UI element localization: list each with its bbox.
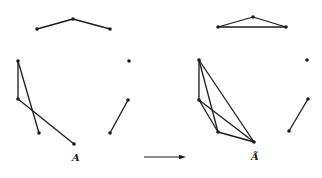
graph-edge: [199, 100, 218, 132]
graph-node: [306, 97, 310, 101]
graph-a-tilde-label: Ã: [250, 151, 259, 162]
graph-node: [71, 17, 75, 21]
graph-node: [16, 59, 20, 63]
graph-edge: [199, 60, 218, 132]
graph-edge: [73, 19, 110, 29]
graph-a-label: A: [71, 152, 80, 163]
graph-edge: [199, 100, 254, 142]
graph-node: [35, 27, 39, 31]
graph-edge: [37, 19, 73, 29]
graph-node: [108, 131, 112, 135]
graph-node: [284, 25, 288, 29]
graph-node: [252, 140, 256, 144]
graph-a-tilde: [197, 15, 310, 144]
graph-node: [251, 15, 255, 19]
transformation-arrow-icon: [144, 155, 186, 159]
diagram-canvas: A Ã: [0, 0, 322, 178]
graph-node: [72, 142, 76, 146]
graph-node: [37, 131, 41, 135]
graph-node: [287, 129, 291, 133]
graph-a: [16, 17, 131, 146]
graph-node: [216, 130, 220, 134]
graph-edge: [199, 60, 254, 142]
graph-edge: [18, 99, 74, 144]
graph-node: [16, 97, 20, 101]
graph-node: [216, 25, 220, 29]
graph-edge: [253, 17, 286, 27]
graph-edge: [218, 17, 253, 27]
graph-edge: [110, 100, 128, 133]
graph-edge: [289, 99, 308, 131]
graph-node: [197, 58, 201, 62]
graph-node: [127, 59, 131, 63]
graph-node: [197, 98, 201, 102]
graph-node: [108, 27, 112, 31]
graph-node: [126, 98, 130, 102]
graph-edge: [18, 61, 39, 133]
graph-node: [305, 58, 309, 62]
